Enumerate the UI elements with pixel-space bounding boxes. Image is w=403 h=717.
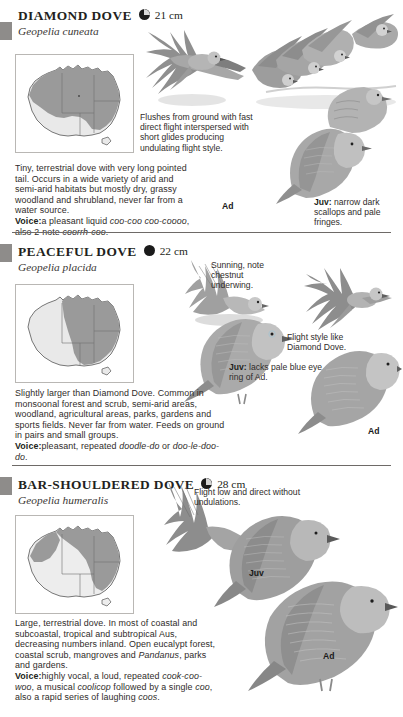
age-label-text: Ad xyxy=(323,651,334,661)
age-label-text: Juv xyxy=(249,568,264,578)
size-dot-icon xyxy=(144,245,155,256)
voice-label: Voice: xyxy=(15,441,42,451)
artwork-bar-shouldered-dove-adult xyxy=(248,569,398,693)
description-diamond-dove: Tiny, terrestrial dove with very long po… xyxy=(15,163,195,237)
voice-text-3: followed by a single xyxy=(111,682,195,692)
scientific-name: Geopelia placida xyxy=(18,261,188,273)
common-name: PEACEFUL DOVE xyxy=(18,245,137,259)
annotation-juvenile-note: Juv: lacks pale blue eye ring of Ad. xyxy=(229,362,325,382)
voice-text-2: or xyxy=(159,441,172,451)
species-header-peaceful-dove: PEACEFUL DOVE22 cm Geopelia placida xyxy=(18,242,188,273)
section-tab xyxy=(0,22,12,40)
annotation-text: Flight style like Diamond Dove. xyxy=(287,332,346,352)
voice-call-1: coo-coo coo-coooo xyxy=(110,216,187,226)
voice-text-2: , a musical xyxy=(32,682,78,692)
voice-call-2: coolicop xyxy=(78,682,111,692)
description-text: Tiny, terrestrial dove with very long po… xyxy=(15,163,187,215)
annotation-text: Flight low and direct without undulation… xyxy=(194,487,300,507)
species-block-bar-shouldered-dove: BAR-SHOULDERED DOVE28 cm Geopelia humera… xyxy=(0,469,403,717)
annotation-juvenile-note: Juv: narrow dark scallops and pale fring… xyxy=(314,197,402,228)
artwork-diamond-dove-juvenile xyxy=(318,75,403,141)
voice-call-3: coo xyxy=(195,682,210,692)
common-name: DIAMOND DOVE xyxy=(18,9,132,23)
voice-call-4: coos xyxy=(138,692,157,702)
annotation-label: Juv: xyxy=(314,197,332,207)
description-peaceful-dove: Slightly larger than Diamond Dove. Commo… xyxy=(15,388,227,462)
field-guide-page: DIAMOND DOVE21 cm Geopelia cuneata xyxy=(0,0,403,717)
distribution-map-bar-shouldered-dove xyxy=(15,515,134,614)
australia-map-svg xyxy=(16,285,131,380)
age-label-juvenile: Juv xyxy=(249,568,264,578)
section-tab xyxy=(0,244,12,262)
age-label-text: Ad xyxy=(222,201,233,211)
distribution-map-peaceful-dove xyxy=(15,284,134,383)
australia-map-svg xyxy=(16,516,131,611)
species-block-diamond-dove: DIAMOND DOVE21 cm Geopelia cuneata xyxy=(0,0,403,236)
annotation-flight-note: Flushes from ground with fast direct fli… xyxy=(140,112,258,153)
description-bar-shouldered-dove: Large, terrestrial dove. In most of coas… xyxy=(15,618,221,703)
species-block-peaceful-dove: PEACEFUL DOVE22 cm Geopelia placida xyxy=(0,236,403,469)
section-divider xyxy=(12,232,391,233)
voice-label: Voice: xyxy=(15,671,42,681)
age-label-adult: Ad xyxy=(368,426,379,436)
artwork-diamond-dove-flight xyxy=(140,18,252,110)
age-label-text: Ad xyxy=(368,426,379,436)
artwork-peaceful-dove-flight xyxy=(296,254,400,340)
australia-map-svg xyxy=(16,55,131,150)
voice-text: highly vocal, a loud, repeated xyxy=(42,671,163,681)
annotation-sunning-note: Sunning, note chestnut underwing. xyxy=(211,260,283,291)
voice-text: a pleasant liquid xyxy=(42,216,110,226)
section-tab xyxy=(0,477,12,495)
annotation-text: Flushes from ground with fast direct fli… xyxy=(140,112,253,153)
annotation-flight-note: Flight low and direct without undulation… xyxy=(194,487,304,507)
annotation-flight-style-note: Flight style like Diamond Dove. xyxy=(287,332,363,352)
age-label-adult: Ad xyxy=(323,651,334,661)
distribution-map-diamond-dove xyxy=(15,54,134,153)
description-body: Large, terrestrial dove. In most of coas… xyxy=(15,618,215,670)
annotation-text: Sunning, note chestnut underwing. xyxy=(211,260,264,290)
age-label-adult: Ad xyxy=(222,201,233,211)
annotation-label: Juv: xyxy=(229,362,247,372)
voice-text: pleasant, repeated xyxy=(42,441,120,451)
voice-end: . xyxy=(25,452,28,462)
section-divider xyxy=(12,465,391,466)
voice-end: . xyxy=(157,692,160,702)
description-text: Slightly larger than Diamond Dove. Commo… xyxy=(15,388,224,440)
voice-call-1: doodle-do xyxy=(119,441,159,451)
voice-label: Voice: xyxy=(15,216,42,226)
description-text: Large, terrestrial dove. In most of coas… xyxy=(15,618,215,670)
